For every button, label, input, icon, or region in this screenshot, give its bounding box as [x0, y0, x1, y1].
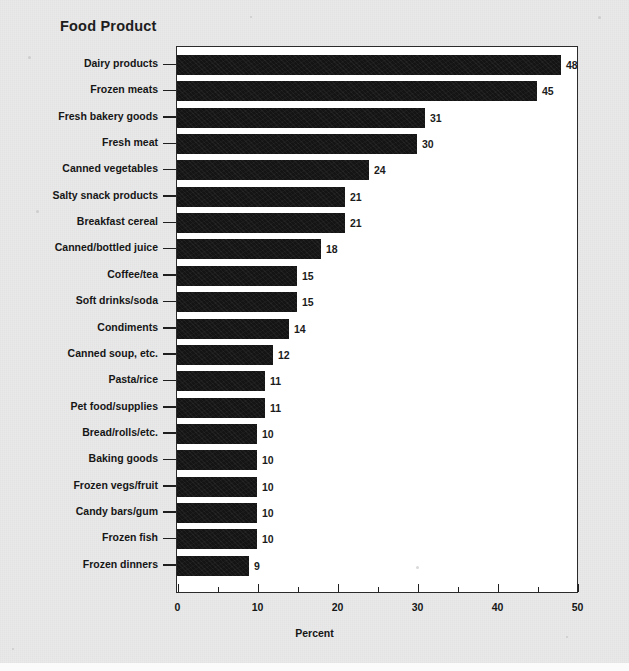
x-axis-tick-label: 20 [332, 601, 344, 613]
bar-row: 21 [177, 187, 579, 207]
bar-row: 10 [177, 450, 579, 470]
category-tick [163, 248, 176, 250]
category-label: Dairy products [0, 57, 158, 69]
bar-row: 10 [177, 477, 579, 497]
x-axis-major-tick [578, 584, 580, 592]
x-axis-minor-tick [458, 587, 460, 592]
bar-row: 10 [177, 424, 579, 444]
category-label: Coffee/tea [0, 268, 158, 280]
x-axis-major-tick [498, 584, 500, 592]
bar-value-label: 11 [270, 375, 281, 387]
bar-value-label: 10 [262, 454, 274, 466]
bar-row: 21 [177, 213, 579, 233]
bar-value-label: 31 [430, 112, 442, 124]
bar-value-label: 48 [566, 59, 578, 71]
category-tick [163, 538, 176, 540]
category-tick [163, 380, 176, 382]
scan-speck [90, 480, 92, 482]
category-tick [163, 327, 176, 329]
bar-value-label: 21 [350, 217, 362, 229]
bar-value-label: 21 [350, 191, 362, 203]
category-label: Pasta/rice [0, 373, 158, 385]
category-label: Canned vegetables [0, 162, 158, 174]
category-tick [163, 222, 176, 224]
category-label: Fresh bakery goods [0, 110, 158, 122]
bar-value-label: 30 [422, 138, 434, 150]
bar [177, 134, 417, 154]
category-label: Condiments [0, 321, 158, 333]
x-axis-tick-label: 0 [175, 601, 181, 613]
category-label: Salty snack products [0, 189, 158, 201]
bar [177, 345, 273, 365]
bar [177, 187, 345, 207]
bar-value-label: 12 [278, 349, 290, 361]
x-axis-major-tick [338, 584, 340, 592]
category-label: Fresh meat [0, 136, 158, 148]
bar-value-label: 10 [262, 507, 274, 519]
category-label: Canned soup, etc. [0, 347, 158, 359]
plot-area: 484531302421211815151412111110101010109 [176, 46, 578, 593]
bar-row: 15 [177, 292, 579, 312]
bar-value-label: 24 [374, 164, 386, 176]
page-title: Food Product [60, 18, 157, 34]
bar [177, 266, 297, 286]
category-tick [163, 459, 176, 461]
category-tick [163, 116, 176, 118]
bar [177, 81, 537, 101]
bar-value-label: 15 [302, 296, 314, 308]
bar-row: 48 [177, 55, 579, 75]
bar [177, 292, 297, 312]
bar-row: 11 [177, 371, 579, 391]
bar-value-label: 11 [270, 402, 281, 414]
scan-speck [250, 16, 252, 18]
x-axis-minor-tick [378, 587, 380, 592]
category-label: Bread/rolls/etc. [0, 426, 158, 438]
page-bottom-edge [0, 663, 629, 671]
bar [177, 398, 265, 418]
category-label: Frozen dinners [0, 558, 158, 570]
x-axis-title: Percent [0, 627, 629, 639]
category-tick [163, 485, 176, 487]
category-tick [163, 301, 176, 303]
category-label: Frozen vegs/fruit [0, 479, 158, 491]
scan-speck [12, 648, 14, 650]
bar-row: 10 [177, 503, 579, 523]
category-tick [163, 143, 176, 145]
bar-row: 31 [177, 108, 579, 128]
bar-row: 9 [177, 556, 579, 576]
category-label: Frozen fish [0, 531, 158, 543]
category-tick [163, 564, 176, 566]
category-tick [163, 511, 176, 513]
x-axis-minor-tick [298, 587, 300, 592]
category-tick [163, 353, 176, 355]
category-label: Candy bars/gum [0, 505, 158, 517]
scan-speck [566, 636, 568, 638]
category-tick [163, 169, 176, 171]
bar [177, 477, 257, 497]
category-tick [163, 195, 176, 197]
bar-value-label: 14 [294, 323, 306, 335]
bar-value-label: 15 [302, 270, 314, 282]
bar-value-label: 10 [262, 533, 274, 545]
bar [177, 503, 257, 523]
x-axis-major-tick [418, 584, 420, 592]
category-tick [163, 274, 176, 276]
bar-value-label: 10 [262, 481, 274, 493]
x-axis-tick-label: 50 [572, 601, 584, 613]
x-axis-tick-label: 40 [492, 601, 504, 613]
x-axis-tick-label: 30 [412, 601, 424, 613]
bar-row: 18 [177, 239, 579, 259]
bar-row: 45 [177, 81, 579, 101]
bar [177, 371, 265, 391]
scan-speck [598, 16, 601, 19]
bar [177, 319, 289, 339]
bar-row: 15 [177, 266, 579, 286]
bar [177, 160, 369, 180]
x-axis-major-tick [258, 584, 260, 592]
category-label: Pet food/supplies [0, 400, 158, 412]
x-axis-minor-tick [218, 587, 220, 592]
bars-container: 484531302421211815151412111110101010109 [177, 47, 577, 592]
bar [177, 424, 257, 444]
bar-row: 12 [177, 345, 579, 365]
bar [177, 529, 257, 549]
